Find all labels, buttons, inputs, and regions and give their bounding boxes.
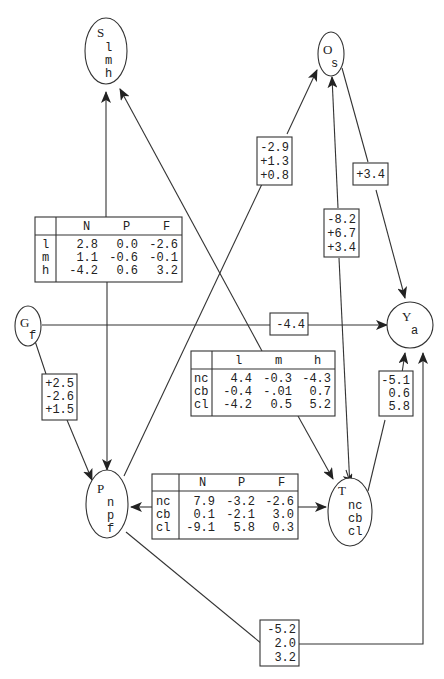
- node-T-title: T: [338, 483, 346, 498]
- table-T-P: N P F nc cb cl 7.9 -3.2 -2.6 0.1 -2.1 3.…: [152, 474, 298, 539]
- row-label: cl: [156, 521, 170, 535]
- node-O-title: O: [323, 42, 332, 57]
- node-P-state: p: [107, 509, 114, 523]
- edge-T-to-O: [332, 77, 338, 208]
- node-T-state: nc: [348, 499, 362, 513]
- node-S-state: l: [105, 41, 112, 55]
- cell: 2.8: [76, 238, 98, 252]
- box-value: -8.2: [327, 213, 356, 227]
- col-header: F: [163, 220, 170, 234]
- edge-P-to-O: [287, 70, 317, 134]
- row-label: nc: [194, 372, 208, 386]
- box-T-O: -8.2 +6.7 +3.4: [324, 209, 359, 257]
- cell: -4.2: [223, 398, 252, 412]
- col-header: P: [123, 220, 130, 234]
- node-G-state: f: [29, 329, 36, 343]
- cell: -0.6: [109, 251, 138, 265]
- edge-P-Y-diag: [126, 532, 262, 644]
- node-P: P n p f: [86, 470, 128, 538]
- cell: -.01: [263, 385, 292, 399]
- cell: 0.3: [272, 521, 294, 535]
- box-T-Y: -5.1 0.6 5.8: [379, 371, 413, 416]
- row-label: cb: [156, 508, 170, 522]
- node-T-state: cb: [348, 512, 362, 526]
- node-P-title: P: [97, 481, 104, 496]
- cell: 1.1: [76, 251, 98, 265]
- cell: 5.2: [309, 398, 331, 412]
- row-label: nc: [156, 495, 170, 509]
- cell: 5.8: [233, 521, 255, 535]
- box-value: -2.6: [45, 390, 74, 404]
- cell: 0.0: [116, 238, 138, 252]
- box-G-P: +2.5 -2.6 +1.5: [42, 374, 77, 420]
- box-value: -5.2: [267, 623, 296, 637]
- box-value: -5.1: [381, 374, 410, 388]
- cell: -2.1: [226, 508, 255, 522]
- cell: 0.7: [309, 385, 331, 399]
- row-label: cl: [194, 398, 208, 412]
- cell: 3.2: [156, 264, 178, 278]
- node-G-title: G: [20, 315, 29, 330]
- row-label: l: [42, 238, 49, 252]
- cell: 4.4: [230, 372, 252, 386]
- box-value: 2.0: [274, 637, 296, 651]
- box-value: +3.4: [356, 168, 385, 182]
- row-label: m: [42, 251, 49, 265]
- cell: -3.2: [226, 495, 255, 509]
- node-S-state: m: [105, 54, 112, 68]
- box-value: 5.8: [388, 400, 410, 414]
- col-header: P: [238, 476, 245, 490]
- edge-G-to-P: [67, 420, 92, 480]
- col-header: h: [314, 354, 321, 368]
- edge-G-P-upper: [35, 341, 46, 374]
- node-S-state: h: [105, 67, 112, 81]
- cell: -0.1: [149, 251, 178, 265]
- box-G-Y: -4.4: [270, 313, 308, 335]
- box-value: -2.9: [260, 141, 289, 155]
- cell: -4.2: [69, 264, 98, 278]
- node-S: S l m h: [85, 18, 127, 84]
- node-P-state: n: [107, 496, 114, 510]
- node-O-state: s: [331, 57, 338, 71]
- edge-table-to-T: [298, 416, 333, 479]
- cell: -9.1: [186, 521, 215, 535]
- cell: -2.6: [265, 495, 294, 509]
- cell: -0.3: [263, 372, 292, 386]
- node-S-title: S: [97, 25, 104, 40]
- cell: 3.0: [272, 508, 294, 522]
- edge-O-Y-upper: [342, 68, 368, 162]
- node-Y-state: a: [411, 324, 418, 338]
- box-value: +0.8: [260, 169, 289, 183]
- edge-T-to-Y: [402, 353, 405, 373]
- cell: 7.9: [193, 495, 215, 509]
- node-Y-title: Y: [402, 309, 412, 324]
- table-T-S: l m h nc cb cl 4.4 -0.3 -4.3 -0.4 -.01 0…: [191, 351, 335, 416]
- box-value: -4.4: [276, 318, 305, 332]
- node-Y: Y a: [387, 302, 433, 348]
- col-header: l: [235, 354, 242, 368]
- edge-T-Y-lower: [368, 420, 385, 491]
- node-P-state: f: [107, 522, 114, 536]
- cell: 0.1: [193, 508, 215, 522]
- row-label: cb: [194, 385, 208, 399]
- cell: -4.3: [302, 372, 331, 386]
- box-value: +6.7: [327, 227, 356, 241]
- box-value: +2.5: [45, 377, 74, 391]
- cell: -2.6: [149, 238, 178, 252]
- box-value: +1.5: [45, 403, 74, 417]
- cell: 0.6: [116, 264, 138, 278]
- box-value: +1.3: [260, 155, 289, 169]
- table-S-P: N P F l m h 2.8 0.0 -2.6 1.1 -0.6 -0.1 -…: [35, 217, 182, 282]
- box-value: 3.2: [274, 651, 296, 665]
- box-value: 0.6: [388, 387, 410, 401]
- edge-T-O-lower: [339, 258, 350, 488]
- box-P-Y: -5.2 2.0 3.2: [260, 620, 299, 666]
- box-P-O: -2.9 +1.3 +0.8: [257, 137, 292, 185]
- col-header: F: [278, 476, 285, 490]
- node-T-state: cl: [348, 525, 362, 539]
- node-O: O s: [318, 32, 344, 76]
- col-header: m: [275, 354, 282, 368]
- col-header: N: [83, 220, 90, 234]
- cell: -0.4: [223, 385, 252, 399]
- box-value: +3.4: [327, 241, 356, 255]
